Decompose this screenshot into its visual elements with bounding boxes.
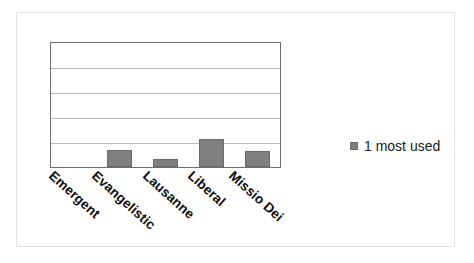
bar-missio-dei[interactable]	[245, 151, 270, 167]
category-label-liberal: Liberal	[185, 168, 228, 209]
category-label-missio-dei: Missio Dei	[226, 168, 286, 225]
bar-evangelistic[interactable]	[107, 150, 132, 167]
bar-liberal[interactable]	[199, 139, 224, 167]
bar-slot-missio-dei	[234, 43, 280, 167]
plot-area	[50, 42, 281, 168]
bar-slot-evangelistic	[97, 43, 143, 167]
bar-slot-liberal	[188, 43, 234, 167]
legend-entry-label: 1 most used	[364, 139, 440, 153]
chart-frame: Emergent Evangelistic Lausanne Liberal M…	[16, 12, 455, 247]
bar-slot-emergent	[51, 43, 97, 167]
bar-lausanne[interactable]	[153, 159, 178, 167]
bars-layer	[51, 43, 280, 167]
legend-swatch-icon	[350, 142, 358, 150]
chart-legend: 1 most used	[350, 139, 440, 153]
bar-slot-lausanne	[143, 43, 189, 167]
